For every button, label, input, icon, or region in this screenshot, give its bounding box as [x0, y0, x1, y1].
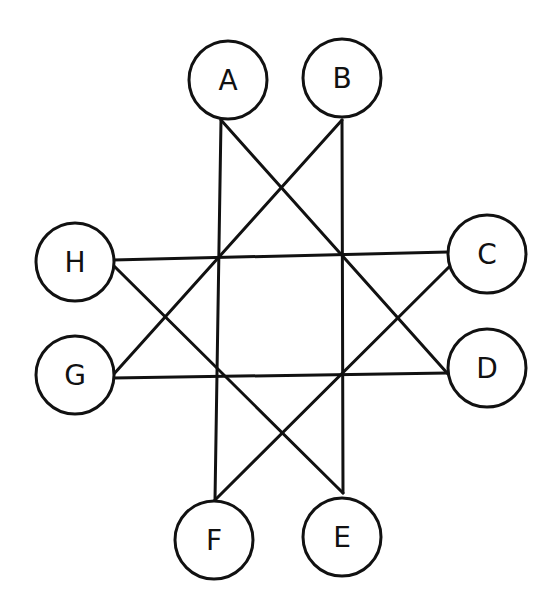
edge-h-e — [113, 265, 343, 493]
node-c: C — [448, 215, 526, 293]
edge-a-f — [215, 120, 221, 500]
node-label: G — [64, 359, 86, 392]
node-label: B — [332, 62, 351, 95]
nodes-layer: ABCDEFGH — [36, 39, 526, 579]
graph-canvas: ABCDEFGH — [0, 0, 559, 610]
node-d: D — [448, 329, 526, 407]
edge-b-e — [342, 120, 343, 493]
edges-layer — [113, 120, 450, 500]
graph-diagram: ABCDEFGH — [0, 0, 559, 610]
node-label: C — [477, 238, 497, 271]
node-f: F — [175, 501, 253, 579]
edge-b-g — [113, 120, 342, 375]
edge-c-f — [215, 266, 450, 500]
edge-a-d — [221, 120, 448, 374]
node-h: H — [36, 223, 114, 301]
node-label: F — [206, 524, 222, 557]
node-label: H — [64, 246, 85, 279]
node-label: D — [476, 352, 498, 385]
node-e: E — [303, 498, 381, 576]
edge-h-c — [113, 252, 448, 260]
node-label: E — [333, 521, 351, 554]
node-a: A — [189, 41, 267, 119]
node-b: B — [303, 39, 381, 117]
edge-g-d — [113, 373, 448, 378]
node-g: G — [36, 336, 114, 414]
node-label: A — [218, 64, 237, 97]
